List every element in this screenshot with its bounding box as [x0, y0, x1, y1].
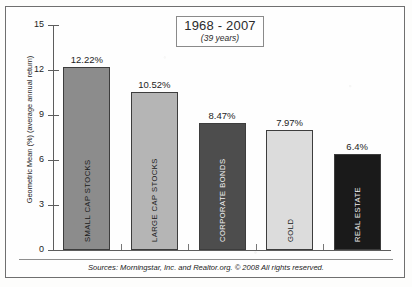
- footer-divider: [19, 259, 393, 260]
- bar[interactable]: CORPORATE BONDS: [199, 123, 246, 250]
- bar-category-label: SMALL CAP STOCKS: [82, 159, 91, 242]
- bar-value-label: 7.97%: [257, 117, 322, 128]
- bar-category-label: LARGE CAP STOCKS: [150, 158, 159, 242]
- y-axis-label: Geometric Mean (%) (average annual retur…: [25, 35, 34, 225]
- bar[interactable]: REAL ESTATE: [334, 154, 381, 250]
- y-axis-tick-label: 9: [24, 109, 44, 119]
- source-note: Sources: Morningstar, Inc. and Realtor.o…: [6, 263, 406, 272]
- y-axis-tick-label: 6: [24, 154, 44, 164]
- bar-category-label: GOLD: [285, 219, 294, 242]
- bar[interactable]: SMALL CAP STOCKS: [63, 67, 110, 250]
- bar-value-label: 8.47%: [190, 110, 255, 121]
- y-axis-tick-label: 0: [24, 244, 44, 254]
- y-axis-tick-label: 15: [24, 19, 44, 29]
- bar-category-label: CORPORATE BONDS: [218, 159, 227, 242]
- plot-area: SMALL CAP STOCKS12.22%LARGE CAP STOCKS10…: [53, 25, 391, 250]
- x-axis-line: [53, 250, 391, 251]
- bar-value-label: 12.22%: [54, 54, 119, 65]
- scanned-page: 1968 - 2007 (39 years) Geometric Mean (%…: [0, 0, 412, 287]
- bar-category-label: REAL ESTATE: [353, 187, 362, 242]
- y-axis-tick-label: 3: [24, 199, 44, 209]
- chart-frame: 1968 - 2007 (39 years) Geometric Mean (%…: [5, 6, 405, 278]
- bar[interactable]: LARGE CAP STOCKS: [131, 92, 178, 250]
- bar-group: SMALL CAP STOCKS12.22%: [63, 25, 110, 250]
- bar[interactable]: GOLD: [266, 130, 313, 250]
- bar-group: CORPORATE BONDS8.47%: [199, 25, 246, 250]
- bar-group: GOLD7.97%: [266, 25, 313, 250]
- bar-group: LARGE CAP STOCKS10.52%: [131, 25, 178, 250]
- y-axis-tick-label: 12: [24, 64, 44, 74]
- bar-group: REAL ESTATE6.4%: [334, 25, 381, 250]
- bar-value-label: 10.52%: [122, 79, 187, 90]
- bar-value-label: 6.4%: [325, 141, 390, 152]
